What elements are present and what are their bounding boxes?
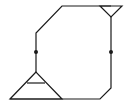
junction-dots bbox=[34, 50, 113, 54]
left-junction-dot bbox=[34, 50, 38, 54]
top-right-triangle bbox=[100, 6, 122, 17]
octagon-outline bbox=[10, 6, 111, 99]
right-junction-dot bbox=[109, 50, 113, 54]
bottom-left-triangle bbox=[10, 72, 62, 99]
line-diagram bbox=[0, 0, 128, 109]
